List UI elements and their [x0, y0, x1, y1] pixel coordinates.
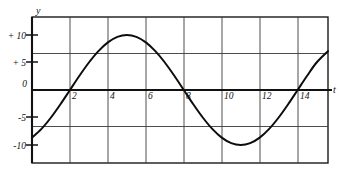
x-tick-label-6: 6: [148, 91, 153, 101]
sinusoid-chart-svg: + 10 + 5 0 -5 -10 2 4 6 8 10 12 14 y t: [0, 0, 339, 173]
chart-figure: + 10 + 5 0 -5 -10 2 4 6 8 10 12 14 y t: [0, 0, 339, 173]
x-tick-label-14: 14: [300, 91, 310, 101]
y-tick-label-5: + 5: [12, 58, 26, 68]
x-tick-label-2: 2: [72, 91, 77, 101]
y-tick-label-10: + 10: [8, 31, 27, 41]
y-tick-label-0: 0: [22, 79, 27, 89]
y-axis-label: y: [35, 5, 41, 16]
x-axis-label: t: [333, 84, 336, 95]
x-tick-label-12: 12: [262, 91, 272, 101]
x-tick-label-10: 10: [224, 91, 234, 101]
y-tick-label-minus5: -5: [18, 113, 26, 123]
y-tick-label-minus10: -10: [13, 141, 26, 151]
x-tick-label-4: 4: [110, 91, 115, 101]
